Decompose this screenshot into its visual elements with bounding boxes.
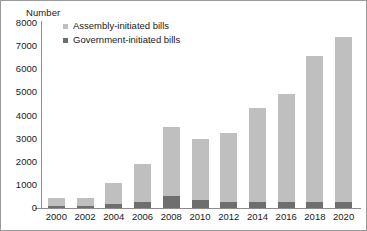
bar-segment-assembly (249, 108, 266, 202)
bar-stack (105, 183, 122, 208)
bar-segment-government (163, 196, 180, 208)
bar-stack (192, 139, 209, 208)
bar-segment-government (192, 200, 209, 208)
y-tick-label: 4000 (1, 111, 37, 121)
bar-stack (335, 37, 352, 208)
legend-label-assembly: Assembly-initiated bills (73, 21, 169, 31)
bar-stack (163, 127, 180, 208)
x-axis-line (35, 208, 361, 209)
bar-segment-assembly (306, 56, 323, 203)
bar-stack (77, 198, 94, 208)
y-tick-label: 3000 (1, 134, 37, 144)
legend-swatch-icon-government (63, 38, 68, 43)
bar-segment-assembly (48, 198, 65, 205)
bar-segment-government (335, 202, 352, 208)
bar-segment-assembly (220, 133, 237, 203)
bar-segment-government (249, 202, 266, 208)
y-tick-label: 5000 (1, 87, 37, 97)
bar-segment-assembly (77, 198, 94, 206)
y-tick-label: 7000 (1, 41, 37, 51)
bar-stack (306, 56, 323, 208)
y-tick-label: 1000 (1, 180, 37, 190)
bar-segment-assembly (163, 127, 180, 196)
legend-item-government: Government-initiated bills (63, 34, 180, 46)
chart-legend: Assembly-initiated bills Government-init… (63, 20, 180, 48)
bar-segment-assembly (335, 37, 352, 202)
y-tick-label: 8000 (1, 18, 37, 28)
bar-stack (134, 164, 151, 208)
bar-segment-assembly (192, 139, 209, 200)
bar-segment-government (306, 202, 323, 208)
bar-segment-assembly (134, 164, 151, 202)
bar-stack (249, 108, 266, 208)
legend-swatch-icon-assembly (63, 24, 68, 29)
bar-segment-assembly (278, 94, 295, 202)
bar-segment-government (77, 206, 94, 208)
y-axis-tick-labels: 800070006000500040003000200010000 (1, 1, 37, 231)
bar-segment-government (105, 204, 122, 208)
y-tick-label: 6000 (1, 64, 37, 74)
bar-stack (48, 198, 65, 208)
bar-segment-assembly (105, 183, 122, 204)
bar-segment-government (278, 202, 295, 208)
legend-item-assembly: Assembly-initiated bills (63, 20, 180, 32)
y-tick-label: 2000 (1, 157, 37, 167)
bar-stack (220, 133, 237, 208)
x-tick-label: 2020 (327, 211, 361, 223)
bar-segment-government (48, 206, 65, 208)
x-axis-tick-labels: 2000200220042006200820102012201420162018… (42, 211, 358, 227)
bar-stack (278, 94, 295, 208)
bar-segment-government (134, 202, 151, 208)
bar-segment-government (220, 202, 237, 208)
y-tick-label: 0 (1, 203, 37, 213)
legend-label-government: Government-initiated bills (73, 35, 180, 45)
plot-area (42, 23, 358, 208)
chart-figure: Number 800070006000500040003000200010000… (0, 0, 367, 231)
